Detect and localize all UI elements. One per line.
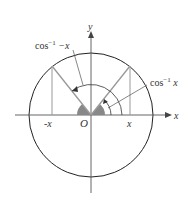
tick-label-neg-x: -x xyxy=(44,118,52,129)
leader-right xyxy=(108,85,147,108)
origin-label: O xyxy=(80,117,88,129)
label-cos-inv-neg-x: cos−1 −x xyxy=(35,39,70,51)
x-axis-arrow-icon xyxy=(165,112,172,118)
tick-label-pos-x: x xyxy=(126,118,132,129)
x-axis-label: x xyxy=(173,110,179,121)
ray-right xyxy=(91,66,130,115)
y-axis-label: y xyxy=(87,21,93,32)
label-cos-inv-x: cos−1 x xyxy=(150,76,178,88)
arc-arrow-left-icon xyxy=(72,86,78,92)
y-axis-arrow-icon xyxy=(88,31,94,38)
unit-circle-diagram: cos−1 −x cos−1 x y x O -x x xyxy=(0,0,188,206)
ray-left xyxy=(52,66,91,115)
leader-left xyxy=(73,50,83,85)
